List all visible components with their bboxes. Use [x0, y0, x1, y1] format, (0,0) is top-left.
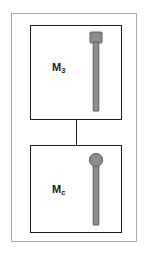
module-label-bottom-subscript: c	[61, 188, 65, 197]
module-label-top-subscript: 3	[61, 66, 65, 75]
module-connector-line	[76, 119, 77, 146]
round-head-pin-icon	[86, 151, 108, 227]
module-label-top: M3	[52, 62, 65, 73]
flat-head-pin-icon	[86, 30, 108, 114]
module-box-top	[30, 25, 122, 120]
module-label-bottom-main: M	[52, 183, 61, 195]
figure-root: M3 Mc	[0, 0, 148, 255]
module-label-top-main: M	[52, 61, 61, 73]
module-box-bottom	[30, 145, 122, 233]
module-label-bottom: Mc	[52, 184, 65, 195]
